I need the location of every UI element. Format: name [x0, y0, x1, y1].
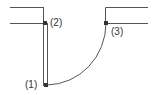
point-marker-1 [44, 83, 48, 87]
door-swing-diagram [0, 0, 152, 95]
left-wall [10, 8, 44, 24]
point-label-2: (2) [50, 18, 62, 28]
point-label-3: (3) [111, 27, 123, 37]
door-swing-arc [47, 23, 106, 85]
point-marker-3 [104, 21, 108, 25]
door-leaf [44, 8, 48, 87]
point-marker-2 [43, 21, 47, 25]
right-wall [106, 8, 149, 24]
point-label-1: (1) [25, 80, 37, 90]
